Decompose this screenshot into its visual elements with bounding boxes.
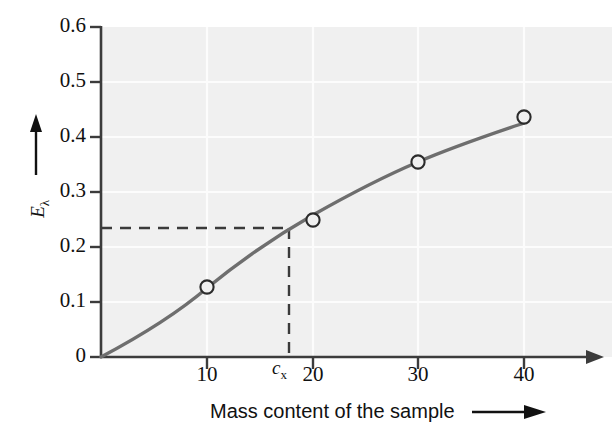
y-tick-label: 0.6 — [22, 15, 86, 36]
y-tick-label: 0.1 — [22, 290, 86, 311]
x-tick-label: 20 — [283, 362, 343, 387]
data-point — [517, 110, 530, 123]
x-tick-label: 30 — [388, 362, 448, 387]
cx-annotation-label: cx — [272, 357, 287, 383]
y-tick-label: 0.2 — [22, 235, 86, 256]
y-axis-title-subscript: λ — [37, 200, 52, 206]
y-axis-title: Eλ — [27, 187, 53, 231]
x-axis-ticks — [207, 357, 524, 369]
y-axis-title-base: E — [27, 206, 48, 218]
y-axis-ticks — [90, 27, 101, 357]
y-tick-label: 0.5 — [22, 70, 86, 91]
x-axis-title-arrow-icon — [472, 405, 546, 419]
cx-label-subscript: x — [280, 367, 286, 382]
data-point — [200, 280, 213, 293]
x-tick-label: 10 — [177, 362, 237, 387]
x-tick-label: 40 — [494, 362, 554, 387]
y-tick-label: 0 — [22, 345, 86, 366]
data-point — [411, 155, 424, 168]
calibration-curve-figure: 0.6 0.5 0.4 0.3 0.2 0.1 0 10 20 30 40 Eλ… — [0, 0, 612, 442]
x-axis-title: Mass content of the sample — [210, 400, 455, 423]
data-point — [306, 213, 319, 226]
y-tick-label: 0.4 — [22, 125, 86, 146]
